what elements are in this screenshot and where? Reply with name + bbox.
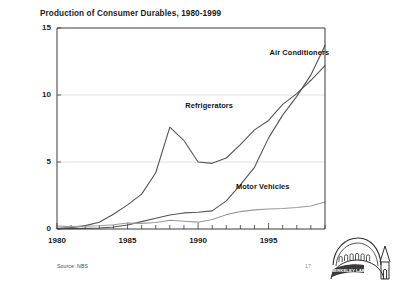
y-tick-label: 15 [25,24,51,32]
slide-canvas: Production of Consumer Durables, 1980-19… [0,0,395,290]
series-label-motor-vehicles: Motor Vehicles [236,182,290,191]
series-line-refrigerators [57,66,325,229]
chart-svg [57,28,325,229]
y-axis-ticks [57,28,61,229]
series-label-refrigerators: Refrigerators [185,101,233,110]
berkeley-lab-logo: BERKELEY LAB [330,232,392,286]
source-note: Source: NBS [57,263,88,269]
logo-tower-icon [380,246,390,279]
y-tick-label: 5 [25,158,51,166]
x-tick-label: 1995 [249,237,289,245]
x-tick-label: 1990 [178,237,218,245]
data-series [57,45,325,228]
page-number: 17 [305,263,311,269]
y-tick-label: 0 [25,225,51,233]
page-title: Production of Consumer Durables, 1980-19… [40,9,221,18]
y-tick-label: 10 [25,91,51,99]
x-tick-label: 1980 [37,237,77,245]
logo-wordmark: BERKELEY LAB [331,264,365,277]
series-line-air-conditioners [57,45,325,228]
series-label-air-conditioners: Air Conditioners [270,48,330,57]
chart-plot-area [57,28,325,229]
logo-wordmark-text: BERKELEY LAB [331,268,365,273]
x-tick-label: 1985 [108,237,148,245]
